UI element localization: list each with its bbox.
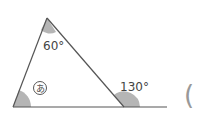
top-angle-label: 60°: [43, 39, 64, 53]
exterior-angle-label: 130°: [120, 80, 149, 94]
right-side: [47, 18, 124, 107]
triangle-diagram: 60° あ 130° (: [0, 0, 211, 115]
answer-paren: (: [184, 80, 194, 110]
unknown-angle-label: あ: [36, 84, 45, 94]
